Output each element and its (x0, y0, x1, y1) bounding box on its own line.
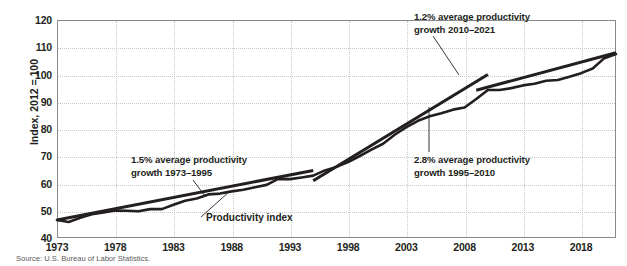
annotation-1995-2010: 2.8% average productivity growth 1995–20… (414, 154, 530, 179)
gridline-x-1993 (291, 21, 292, 237)
gridline-x-2013 (524, 21, 525, 237)
annotation-1995-2010-line2: growth 1995–2010 (414, 167, 530, 180)
source-note: Source: U.S. Bureau of Labor Statistics. (16, 254, 150, 263)
gridline-x-1988 (233, 21, 234, 237)
annotation-2010-2021: 1.2% average productivity growth 2010–20… (414, 11, 530, 36)
y-tick-label-70: 70 (14, 150, 52, 162)
y-tick-label-110: 110 (14, 41, 52, 53)
gridline-y-110 (58, 48, 615, 49)
annotation-1995-2010-line1: 2.8% average productivity (414, 154, 530, 167)
gridline-y-60 (58, 185, 615, 186)
gridline-x-1983 (174, 21, 175, 237)
annotation-2010-2021-line1: 1.2% average productivity (414, 11, 530, 24)
gridline-x-2003 (407, 21, 408, 237)
gridline-x-1978 (116, 21, 117, 237)
series-label-productivity-index: Productivity index (206, 212, 293, 223)
x-tick-label-2013: 2013 (496, 241, 550, 253)
x-tick-label-1973: 1973 (30, 241, 84, 253)
annotation-1973-1995-line2: growth 1973–1995 (131, 167, 247, 180)
gridline-y-50 (58, 212, 615, 213)
y-tick-label-50: 50 (14, 205, 52, 217)
y-tick-label-100: 100 (14, 69, 52, 81)
annotation-1973-1995-line1: 1.5% average productivity (131, 154, 247, 167)
x-tick-label-1993: 1993 (263, 241, 317, 253)
x-tick-label-2018: 2018 (554, 241, 608, 253)
gridline-x-2008 (466, 21, 467, 237)
gridline-y-100 (58, 76, 615, 77)
plot-area (57, 20, 616, 238)
gridline-y-80 (58, 130, 615, 131)
y-tick-label-90: 90 (14, 96, 52, 108)
x-tick-label-2008: 2008 (438, 241, 492, 253)
gridline-x-1998 (349, 21, 350, 237)
annotation-1973-1995: 1.5% average productivity growth 1973–19… (131, 154, 247, 179)
productivity-chart-figure: Index, 2012 = 100 405060708090100110120 … (0, 0, 627, 266)
x-tick-label-1978: 1978 (88, 241, 142, 253)
y-tick-label-80: 80 (14, 123, 52, 135)
gridline-y-90 (58, 103, 615, 104)
annotation-2010-2021-line2: growth 2010–2021 (414, 24, 530, 37)
x-tick-label-1988: 1988 (205, 241, 259, 253)
y-tick-label-60: 60 (14, 178, 52, 190)
y-tick-label-120: 120 (14, 14, 52, 26)
x-tick-label-1998: 1998 (321, 241, 375, 253)
x-tick-label-2003: 2003 (379, 241, 433, 253)
x-tick-label-1983: 1983 (146, 241, 200, 253)
gridline-x-2018 (582, 21, 583, 237)
